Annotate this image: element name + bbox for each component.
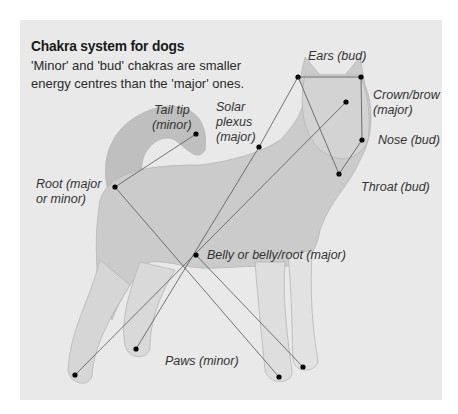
chakra-dot-crown <box>343 99 348 104</box>
label-root-line1: Root (major <box>36 177 101 192</box>
label-root: Root (major or minor) <box>36 177 101 207</box>
chakra-dot-ear-left <box>295 74 300 79</box>
chakra-dot-paw-front-near <box>300 364 305 369</box>
label-crown-line1: Crown/brow <box>373 88 440 103</box>
chakra-dot-paw-rear-far <box>72 372 77 377</box>
label-root-line2: or minor) <box>36 192 101 207</box>
chakra-dot-ear-right <box>358 74 363 79</box>
chakra-dot-tail-tip <box>193 131 198 136</box>
label-solar-plexus: Solar plexus (major) <box>216 100 256 145</box>
label-crown: Crown/brow (major) <box>373 88 440 118</box>
label-nose: Nose (bud) <box>378 133 440 148</box>
chakra-dot-throat <box>336 171 341 176</box>
label-ears: Ears (bud) <box>308 49 366 64</box>
chakra-dot-belly <box>193 252 198 257</box>
label-crown-line2: (major) <box>373 103 440 118</box>
label-throat: Throat (bud) <box>361 180 430 195</box>
chakra-dot-paw-rear-near <box>133 346 138 351</box>
label-tail-line2: (minor) <box>152 118 192 133</box>
label-tail-tip: Tail tip (minor) <box>152 103 192 133</box>
chakra-dot-root <box>112 184 117 189</box>
label-solar-line1: Solar <box>216 100 256 115</box>
label-solar-line3: (major) <box>216 130 256 145</box>
diagram-title: Chakra system for dogs <box>31 37 184 54</box>
label-tail-line1: Tail tip <box>152 103 192 118</box>
label-paws: Paws (minor) <box>165 354 239 369</box>
label-belly: Belly or belly/root (major) <box>207 248 346 263</box>
diagram-subtitle: 'Minor' and 'bud' chakras are smaller en… <box>31 57 251 93</box>
label-solar-line2: plexus <box>216 115 256 130</box>
chakra-dot-solar-plexus <box>256 144 261 149</box>
chakra-dot-nose <box>359 137 364 142</box>
chakra-dot-paw-front-far <box>276 374 281 379</box>
